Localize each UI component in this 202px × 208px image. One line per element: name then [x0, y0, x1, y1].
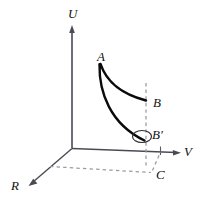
base-dashed-guide	[50, 167, 151, 173]
r-axis-label: R	[11, 179, 19, 192]
figure-graphics	[0, 0, 202, 208]
curve-a-to-b	[101, 64, 147, 101]
r-axis-line	[33, 149, 72, 183]
point-a-label: A	[97, 50, 105, 63]
v-axis-label: V	[184, 145, 192, 158]
process-curves	[99, 64, 146, 141]
figure-canvas: U V R A B B′ C	[0, 0, 202, 208]
point-b-prime-label: B′	[152, 128, 163, 141]
u-axis-arrowhead	[69, 25, 75, 33]
curve-apex-wedge	[100, 64, 102, 70]
u-axis-label: U	[68, 7, 77, 20]
v-axis-arrowhead	[173, 150, 181, 156]
point-c-label: C	[156, 168, 165, 181]
point-b-label: B	[153, 96, 161, 109]
